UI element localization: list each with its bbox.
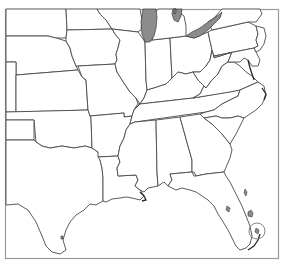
texas-bay-marker — [61, 236, 63, 239]
state-iowa[interactable] — [66, 29, 120, 66]
map-container: Eastern United States — [0, 0, 286, 266]
lake-michigan-north — [174, 9, 176, 14]
state-colorado[interactable] — [6, 62, 16, 112]
state-kansas[interactable] — [16, 70, 88, 112]
eastern-us-map — [0, 0, 286, 266]
state-new-mexico[interactable] — [6, 120, 34, 140]
state-south-dakota[interactable] — [6, 9, 67, 38]
